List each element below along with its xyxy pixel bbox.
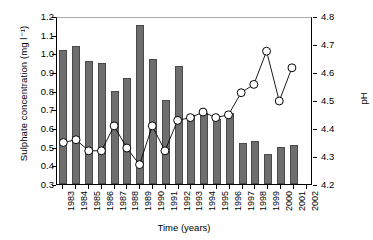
x-axis-tick-mark [203, 185, 204, 189]
x-axis-tick-label: 1988 [130, 191, 140, 211]
x-axis-tick-mark [267, 185, 268, 189]
y-axis-left-tick-label: 0.9 [14, 67, 54, 78]
y-axis-right-tick-mark [313, 157, 317, 158]
x-axis-tick-mark [75, 185, 76, 189]
y-axis-right-tick-mark [313, 185, 317, 186]
y-axis-left-tick-label: 1.1 [14, 30, 54, 41]
y-axis-right-tick-label: 4.6 [321, 67, 361, 78]
ph-data-point-marker: 1989: pH 4.27 [136, 161, 144, 169]
y-axis-right-tick-label: 4.2 [321, 179, 361, 190]
x-axis-tick-label: 2002 [310, 191, 320, 211]
x-axis-tick-mark [88, 185, 89, 189]
ph-data-point-marker: 1983: pH 4.35 [59, 139, 67, 147]
x-axis-tick-mark [216, 185, 217, 189]
x-axis-tick-mark [152, 185, 153, 189]
x-axis-tick-label: 1997 [246, 191, 256, 211]
ph-data-point-marker: 1988: pH 4.33 [123, 144, 131, 152]
y-axis-right-tick-label: 4.4 [321, 123, 361, 134]
x-axis-tick-mark [293, 185, 294, 189]
plot-area: 1983: pH 4.351984: pH 4.361985: pH 4.321… [56, 17, 312, 185]
y-axis-right-tick-mark [313, 17, 317, 18]
x-axis-tick-label: 1992 [182, 191, 192, 211]
y-axis-left-tick-label: 0.8 [14, 86, 54, 97]
ph-data-point-marker: 1990: pH 4.41 [148, 122, 156, 130]
x-axis-tick-label: 1995 [220, 191, 230, 211]
ph-data-point-marker: 1992: pH 4.43 [174, 116, 182, 124]
x-axis-tick-label: 1984 [79, 191, 89, 211]
x-axis-tick-mark [254, 185, 255, 189]
ph-data-point-marker: 1991: pH 4.32 [161, 147, 169, 155]
x-axis-tick-label: 1991 [169, 191, 179, 211]
x-axis-tick-label: 1996 [233, 191, 243, 211]
x-axis-tick-mark [114, 185, 115, 189]
ph-data-point-marker: 1996: pH 4.45 [224, 111, 232, 119]
ph-data-point-marker: 2001: pH 4.62 [288, 64, 296, 72]
y-axis-left-tick-label: 1.0 [14, 48, 54, 59]
ph-data-point-marker: 1984: pH 4.36 [72, 136, 80, 144]
ph-data-point-marker: 1998: pH 4.56 [250, 80, 258, 88]
x-axis-tick-label: 2000 [284, 191, 294, 211]
y-axis-right-tick-label: 4.5 [321, 95, 361, 106]
x-axis-tick-mark [101, 185, 102, 189]
x-axis-tick-mark [126, 185, 127, 189]
ph-data-point-marker: 1993: pH 4.44 [186, 114, 194, 122]
x-axis-tick-mark [306, 185, 307, 189]
x-axis-tick-mark [190, 185, 191, 189]
x-axis-tick-label: 2001 [297, 191, 307, 211]
y-axis-right-tick-mark [313, 129, 317, 130]
y-axis-right-tick-mark [313, 45, 317, 46]
x-axis-tick-label: 1994 [207, 191, 217, 211]
ph-data-point-marker: 1985: pH 4.32 [85, 147, 93, 155]
ph-data-point-marker: 1999: pH 4.68 [263, 47, 271, 55]
x-axis-tick-mark [62, 185, 63, 189]
y-axis-right-tick-mark [313, 101, 317, 102]
x-axis-title: Time (years) [56, 222, 312, 233]
ph-data-point-marker: 1997: pH 4.53 [237, 89, 245, 97]
y-axis-left-tick-label: 0.3 [14, 179, 54, 190]
x-axis-tick-label: 1985 [92, 191, 102, 211]
y-axis-right-tick-label: 4.7 [321, 39, 361, 50]
x-axis-tick-label: 1986 [105, 191, 115, 211]
ph-data-point-marker: 1987: pH 4.41 [110, 122, 118, 130]
y-axis-right-tick-label: 4.3 [321, 151, 361, 162]
ph-line-path [63, 51, 292, 164]
x-axis-tick-label: 1993 [194, 191, 204, 211]
ph-data-point-marker: 2000: pH 4.5 [275, 97, 283, 105]
ph-data-point-marker: 1995: pH 4.44 [212, 114, 220, 122]
x-axis-tick-mark [229, 185, 230, 189]
x-axis-tick-label: 1987 [118, 191, 128, 211]
ph-data-point-marker: 1994: pH 4.46 [199, 108, 207, 116]
x-axis-tick-mark [139, 185, 140, 189]
y-axis-left-tick-label: 1.2 [14, 11, 54, 22]
x-axis-tick-label: 1990 [156, 191, 166, 211]
x-axis-tick-label: 1983 [66, 191, 76, 211]
y-axis-right-tick-label: 4.8 [321, 11, 361, 22]
y-axis-right-tick-mark [313, 73, 317, 74]
y-axis-left-tick-label: 0.5 [14, 142, 54, 153]
x-axis-tick-mark [165, 185, 166, 189]
x-axis-tick-mark [242, 185, 243, 189]
y-axis-left-tick-label: 0.7 [14, 104, 54, 115]
x-axis-tick-label: 1999 [271, 191, 281, 211]
x-axis-tick-label: 1998 [258, 191, 268, 211]
y-axis-left-tick-label: 0.4 [14, 160, 54, 171]
x-axis-tick-mark [178, 185, 179, 189]
y-axis-left-tick-mark [52, 185, 56, 186]
ph-data-point-marker: 1986: pH 4.32 [97, 147, 105, 155]
ph-line-series-layer: 1983: pH 4.351984: pH 4.361985: pH 4.321… [57, 18, 311, 184]
x-axis-tick-label: 1989 [143, 191, 153, 211]
y-axis-left-tick-label: 0.6 [14, 123, 54, 134]
x-axis-tick-mark [280, 185, 281, 189]
chart-figure: Sulphate concentration (mg l⁻¹) pH Time … [0, 0, 373, 240]
